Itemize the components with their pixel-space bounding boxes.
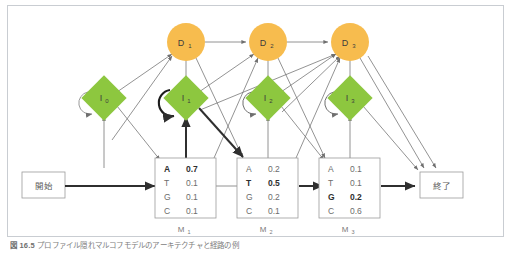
- match-M1-row3-symbol: C: [164, 206, 170, 216]
- insert-state-I1-label: I: [182, 93, 185, 103]
- match-M1-sub: 1: [187, 229, 190, 235]
- match-M3-row1-value: 0.1: [350, 178, 362, 188]
- match-M3-row3-value: 0.6: [350, 206, 362, 216]
- match-M3-caption: M 3: [342, 225, 355, 235]
- match-M3-row0-symbol: A: [328, 164, 334, 174]
- edge-i1-m2-bold: [199, 108, 243, 157]
- edge-i0-d1: [117, 54, 172, 92]
- delete-state-D2[interactable]: D 2: [249, 23, 287, 61]
- delete-state-D2-label: D: [260, 38, 267, 48]
- match-M1-caption: M 1: [178, 225, 191, 235]
- match-M3-row2-value: 0.2: [350, 192, 362, 202]
- match-M2-sub: 2: [269, 229, 272, 235]
- figure-caption-number: 図 16.5: [10, 241, 35, 250]
- match-M2-row0-symbol: A: [246, 164, 252, 174]
- insert-state-I3-label: I: [346, 93, 349, 103]
- match-M1-row1-symbol: T: [164, 178, 169, 188]
- start-node[interactable]: 開始: [22, 172, 65, 198]
- edge-i2-m3: [281, 106, 324, 160]
- insert-state-I1[interactable]: I 1: [163, 75, 208, 120]
- match-M1-label: M: [178, 225, 185, 234]
- match-M3-label: M: [342, 225, 349, 234]
- insert-state-I2-label: I: [264, 93, 267, 103]
- match-M2-row3-value: 0.1: [268, 206, 280, 216]
- delete-state-D1[interactable]: D 1: [167, 23, 205, 61]
- match-M2-row2-value: 0.2: [268, 192, 280, 202]
- figure-container: D 1 D 2 D 3 I 0 I 1 I 2: [0, 0, 512, 255]
- delete-state-D3-label: D: [342, 38, 349, 48]
- match-M2-row1-value: 0.5: [268, 178, 280, 188]
- figure-caption: 図 16.5 プロファイル隠れマルコフモデルのアーキテクチャと経路の例: [10, 241, 502, 251]
- match-M1-row2-symbol: G: [164, 192, 171, 202]
- end-node[interactable]: 終了: [420, 172, 463, 198]
- delete-state-D3[interactable]: D 3: [331, 23, 369, 61]
- match-state-M2[interactable]: A 0.2 T 0.5 G 0.2 C 0.1: [237, 158, 298, 218]
- match-state-M3[interactable]: A 0.1 T 0.1 G 0.2 C 0.6: [319, 158, 380, 218]
- match-M2-row1-symbol: T: [246, 178, 252, 188]
- match-M3-sub: 3: [351, 229, 354, 235]
- match-M1-row0-symbol: A: [164, 164, 170, 174]
- hmm-diagram: D 1 D 2 D 3 I 0 I 1 I 2: [0, 0, 512, 255]
- match-M3-row0-value: 0.1: [350, 164, 362, 174]
- match-M2-caption: M 2: [260, 225, 273, 235]
- match-M1-row0-value: 0.7: [186, 164, 198, 174]
- match-M2-label: M: [260, 225, 267, 234]
- edge-i0-m1: [117, 106, 160, 160]
- match-M3-row1-symbol: T: [328, 178, 333, 188]
- match-M1-row3-value: 0.1: [186, 206, 198, 216]
- delete-state-D1-label: D: [178, 38, 185, 48]
- match-M3-row3-symbol: C: [328, 206, 334, 216]
- match-M2-row3-symbol: C: [246, 206, 252, 216]
- edge-d3-end: [360, 58, 424, 168]
- start-node-label: 開始: [35, 181, 53, 191]
- match-M3-row2-symbol: G: [328, 192, 335, 202]
- match-M2-row0-value: 0.2: [268, 164, 280, 174]
- match-M2-row2-symbol: G: [246, 192, 253, 202]
- match-M1-row2-value: 0.1: [186, 192, 198, 202]
- insert-state-I0-label: I: [100, 93, 103, 103]
- match-state-M1[interactable]: A 0.7 T 0.1 G 0.1 C 0.1: [155, 158, 216, 218]
- end-node-label: 終了: [433, 181, 451, 191]
- figure-caption-text: プロファイル隠れマルコフモデルのアーキテクチャと経路の例: [37, 241, 239, 250]
- match-M1-row1-value: 0.1: [186, 178, 198, 188]
